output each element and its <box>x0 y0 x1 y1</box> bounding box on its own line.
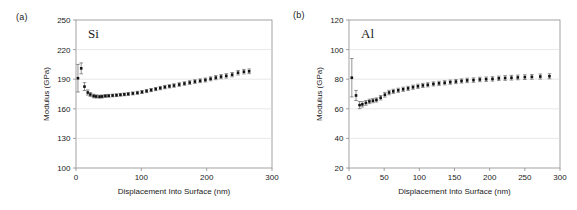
y-tick-label: 100 <box>330 46 344 55</box>
y-tick-label: 120 <box>330 16 344 25</box>
data-point <box>209 78 212 81</box>
data-point <box>498 77 501 80</box>
figure-container: (a) 1001301601902202500100200300Displace… <box>0 0 577 210</box>
y-tick-label: 160 <box>57 105 71 114</box>
data-point <box>358 104 361 107</box>
data-point <box>368 100 371 103</box>
data-point <box>491 78 494 81</box>
data-point <box>173 84 176 87</box>
data-point <box>164 86 167 89</box>
data-point <box>159 87 162 90</box>
x-tick-label: 300 <box>553 173 567 182</box>
y-tick-label: 220 <box>57 46 71 55</box>
data-point <box>231 73 234 76</box>
data-point <box>504 77 507 80</box>
data-point <box>132 92 135 95</box>
data-point <box>104 95 107 98</box>
y-axis-title: Modulus (GPa) <box>315 67 324 121</box>
x-tick-label: 100 <box>135 173 149 182</box>
y-tick-label: 80 <box>335 75 344 84</box>
data-point <box>204 79 207 82</box>
data-point <box>150 89 153 92</box>
y-tick-label: 60 <box>335 105 344 114</box>
data-point <box>548 75 551 78</box>
data-point <box>397 89 400 92</box>
x-tick-label: 200 <box>483 173 497 182</box>
data-point <box>220 75 223 78</box>
data-point <box>237 71 240 74</box>
y-tick-label: 250 <box>57 16 71 25</box>
data-point <box>379 96 382 99</box>
y-axis-title: Modulus (GPa) <box>42 67 51 121</box>
data-point <box>517 76 520 79</box>
data-point <box>438 82 441 85</box>
data-point <box>455 80 458 83</box>
series-annotation: Si <box>88 26 99 41</box>
data-point <box>351 76 354 79</box>
chart-panel-b: (b) 20406080100120050100150200250300Disp… <box>287 0 577 210</box>
data-point <box>443 81 446 84</box>
data-point <box>460 80 463 83</box>
data-point <box>141 91 144 94</box>
data-point <box>243 70 246 73</box>
x-tick-label: 200 <box>200 173 214 182</box>
data-point <box>531 76 534 79</box>
plot-area-b: 20406080100120050100150200250300Displace… <box>287 0 577 210</box>
data-point <box>154 88 157 91</box>
data-point <box>248 70 251 73</box>
x-tick-label: 0 <box>347 173 352 182</box>
data-point <box>361 103 364 106</box>
data-point <box>392 90 395 93</box>
data-point <box>95 95 98 98</box>
data-point <box>107 94 110 97</box>
chart-panel-a: (a) 1001301601902202500100200300Displace… <box>0 0 290 210</box>
y-tick-label: 130 <box>57 134 71 143</box>
data-point <box>426 84 429 87</box>
data-point <box>80 67 83 70</box>
data-point <box>199 79 202 82</box>
data-point <box>479 78 482 81</box>
data-point <box>115 94 118 97</box>
plot-frame <box>349 20 560 168</box>
data-point <box>194 80 197 83</box>
x-tick-label: 100 <box>413 173 427 182</box>
data-point <box>77 77 80 80</box>
x-tick-label: 50 <box>380 173 389 182</box>
plot-area-a: 1001301601902202500100200300Displacement… <box>0 0 290 210</box>
data-point <box>101 95 104 98</box>
data-point <box>485 78 488 81</box>
data-point <box>432 83 435 86</box>
data-point <box>188 81 191 84</box>
x-axis-title: Displacement Into Surface (nm) <box>118 187 231 196</box>
x-tick-label: 150 <box>448 173 462 182</box>
data-point <box>388 91 391 94</box>
data-point <box>119 93 122 96</box>
data-point <box>384 93 387 96</box>
data-point <box>89 93 92 96</box>
data-point <box>407 87 410 90</box>
data-point <box>183 82 186 85</box>
x-tick-label: 300 <box>265 173 279 182</box>
plot-frame <box>76 20 272 168</box>
data-point <box>98 95 101 98</box>
data-point <box>215 76 218 79</box>
data-point <box>123 93 126 96</box>
data-point <box>355 94 358 97</box>
data-point <box>412 86 415 89</box>
y-tick-label: 100 <box>57 164 71 173</box>
data-point <box>365 102 368 105</box>
x-axis-title: Displacement Into Surface (nm) <box>398 187 511 196</box>
data-point <box>539 75 542 78</box>
data-point <box>225 75 228 78</box>
data-point <box>417 85 420 88</box>
data-point <box>472 79 475 82</box>
y-tick-label: 20 <box>335 164 344 173</box>
x-tick-label: 250 <box>518 173 532 182</box>
y-tick-label: 190 <box>57 75 71 84</box>
data-point <box>402 88 405 91</box>
data-point <box>449 81 452 84</box>
data-point <box>422 84 425 87</box>
data-point <box>466 79 469 82</box>
data-point <box>510 76 513 79</box>
data-point <box>111 94 114 97</box>
